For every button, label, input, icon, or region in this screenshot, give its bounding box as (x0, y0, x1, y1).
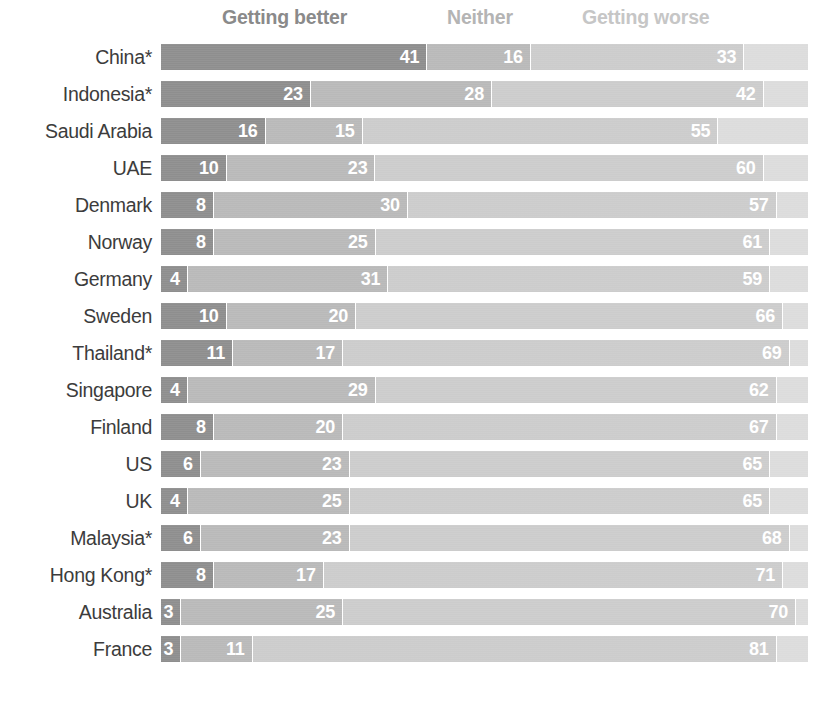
segment-value: 81 (749, 636, 776, 662)
segment-getting-worse: 81 (252, 636, 776, 662)
chart-row: UK42565 (0, 488, 825, 525)
segment-value: 25 (348, 229, 375, 255)
chart-row: Singapore42962 (0, 377, 825, 414)
chart-row: Thailand*111769 (0, 340, 825, 377)
segment-getting-better: 8 (161, 414, 213, 440)
segment-neither: 31 (187, 266, 388, 292)
segment-value: 23 (322, 525, 349, 551)
row-label-denmark: Denmark (0, 192, 152, 218)
segment-remainder (782, 562, 808, 588)
segment-getting-worse: 65 (349, 488, 770, 514)
stacked-bar: 43159 (161, 266, 808, 292)
segment-remainder (769, 266, 808, 292)
segment-getting-better: 3 (161, 636, 180, 662)
segment-value: 4 (170, 377, 187, 403)
segment-remainder (743, 44, 808, 70)
stacked-bar: 42565 (161, 488, 808, 514)
row-label-thailand: Thailand* (0, 340, 152, 366)
segment-value: 59 (743, 266, 770, 292)
stacked-bar: 82067 (161, 414, 808, 440)
segment-getting-better: 4 (161, 488, 187, 514)
chart-row: Hong Kong*81771 (0, 562, 825, 599)
segment-remainder (782, 303, 808, 329)
chart-row: Denmark83057 (0, 192, 825, 229)
segment-getting-better: 23 (161, 81, 310, 107)
segment-neither: 23 (200, 525, 349, 551)
segment-value: 8 (196, 229, 213, 255)
segment-getting-better: 8 (161, 562, 213, 588)
segment-getting-better: 4 (161, 377, 187, 403)
segment-getting-better: 6 (161, 525, 200, 551)
segment-value: 65 (743, 451, 770, 477)
segment-value: 8 (196, 562, 213, 588)
stacked-bar: 161555 (161, 118, 808, 144)
segment-value: 65 (743, 488, 770, 514)
segment-remainder (763, 81, 808, 107)
segment-remainder (769, 488, 808, 514)
legend-item-getting-better: Getting better (222, 6, 347, 29)
segment-value: 11 (226, 636, 252, 662)
chart-row: Australia32570 (0, 599, 825, 636)
segment-getting-worse: 69 (342, 340, 788, 366)
row-label-malaysia: Malaysia* (0, 525, 152, 551)
chart-row: Germany43159 (0, 266, 825, 303)
segment-neither: 28 (310, 81, 491, 107)
segment-getting-better: 3 (161, 599, 180, 625)
segment-value: 16 (503, 44, 530, 70)
segment-remainder (717, 118, 808, 144)
row-label-saudi-arabia: Saudi Arabia (0, 118, 152, 144)
stacked-bar: 31181 (161, 636, 808, 662)
segment-value: 25 (316, 599, 343, 625)
segment-value: 41 (400, 44, 427, 70)
stacked-bar: 83057 (161, 192, 808, 218)
segment-neither: 23 (200, 451, 349, 477)
segment-neither: 29 (187, 377, 375, 403)
stacked-bar: 32570 (161, 599, 808, 625)
row-label-norway: Norway (0, 229, 152, 255)
segment-value: 6 (183, 451, 200, 477)
stacked-bar: 81771 (161, 562, 808, 588)
segment-value: 10 (199, 303, 226, 329)
stacked-bar: 411633 (161, 44, 808, 70)
segment-value: 33 (717, 44, 744, 70)
segment-getting-worse: 62 (375, 377, 776, 403)
chart-legend: Getting better Neither Getting worse (0, 6, 825, 36)
chart-row: China*411633 (0, 44, 825, 81)
segment-value: 17 (296, 562, 323, 588)
segment-neither: 15 (265, 118, 362, 144)
chart-row: Indonesia*232842 (0, 81, 825, 118)
segment-neither: 16 (426, 44, 530, 70)
segment-value: 25 (322, 488, 349, 514)
segment-neither: 17 (232, 340, 342, 366)
segment-value: 31 (361, 266, 388, 292)
stacked-bar-chart: Getting better Neither Getting worse Chi… (0, 0, 825, 713)
segment-value: 3 (164, 599, 181, 625)
segment-neither: 23 (226, 155, 375, 181)
segment-remainder (795, 599, 808, 625)
segment-getting-better: 16 (161, 118, 265, 144)
segment-value: 16 (238, 118, 265, 144)
segment-getting-worse: 66 (355, 303, 782, 329)
row-label-france: France (0, 636, 152, 662)
segment-remainder (776, 636, 808, 662)
segment-value: 70 (768, 599, 795, 625)
segment-remainder (789, 525, 808, 551)
segment-value: 23 (348, 155, 375, 181)
segment-value: 20 (316, 414, 343, 440)
segment-getting-better: 11 (161, 340, 232, 366)
chart-row: Malaysia*62368 (0, 525, 825, 562)
segment-getting-worse: 42 (491, 81, 763, 107)
row-label-singapore: Singapore (0, 377, 152, 403)
segment-neither: 20 (213, 414, 342, 440)
segment-getting-worse: 59 (387, 266, 769, 292)
segment-neither: 17 (213, 562, 323, 588)
segment-getting-worse: 65 (349, 451, 770, 477)
stacked-bar: 232842 (161, 81, 808, 107)
segment-value: 42 (736, 81, 763, 107)
stacked-bar: 111769 (161, 340, 808, 366)
segment-neither: 20 (226, 303, 355, 329)
segment-value: 69 (762, 340, 789, 366)
row-label-uk: UK (0, 488, 152, 514)
segment-remainder (776, 192, 808, 218)
row-label-indonesia: Indonesia* (0, 81, 152, 107)
